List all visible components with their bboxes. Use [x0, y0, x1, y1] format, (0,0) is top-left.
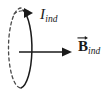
current-direction-arrowhead [24, 8, 33, 18]
field-symbol: B [78, 38, 88, 54]
induced-current-label: Iind [40, 7, 58, 25]
loop-back-half-dashed [8, 8, 21, 88]
field-arrow-head [62, 48, 72, 57]
physics-diagram-figure: Iind B ind [0, 0, 112, 100]
field-vector-group: B [78, 39, 88, 54]
current-subscript: ind [45, 14, 57, 24]
induced-field-label: B ind [78, 39, 100, 57]
vector-arrow-overbar-icon [77, 34, 88, 40]
loop-front-half-solid [21, 10, 32, 88]
field-subscript: ind [88, 46, 100, 56]
